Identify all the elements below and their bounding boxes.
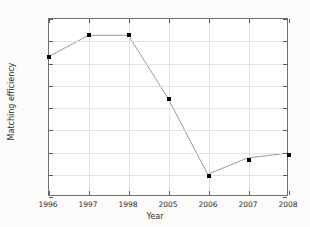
gridline-horizontal [49,64,287,65]
gridline-vertical [89,19,90,195]
gridline-vertical [129,19,130,195]
gridline-horizontal [49,175,287,176]
x-axis-tick-top [129,19,130,23]
x-axis-tick [209,191,210,195]
data-point-marker [207,174,211,178]
series-line [49,19,287,195]
y-axis-tick-right [283,108,287,109]
x-axis-tick [49,191,50,195]
y-axis-tick [49,108,53,109]
y-axis-tick [49,41,53,42]
y-axis-tick-right [283,19,287,20]
y-axis-tick-right [283,64,287,65]
gridline-vertical [169,19,170,195]
x-axis-tick [129,191,130,195]
x-axis-tick [249,191,250,195]
data-point-marker [247,158,251,162]
y-axis-tick [49,197,53,198]
data-point-marker [167,97,171,101]
y-axis-tick-right [283,197,287,198]
y-axis-tick-right [283,130,287,131]
gridline-horizontal [49,86,287,87]
y-axis-title: Matching efficiency [7,52,16,152]
x-axis-tick [289,191,290,195]
x-axis-tick-top [209,19,210,23]
x-axis-tick-top [49,19,50,23]
x-axis-tick-label: 2005 [158,201,177,209]
x-axis-tick-top [249,19,250,23]
gridline-vertical [209,19,210,195]
y-axis-tick [49,175,53,176]
x-axis-tick-label: 1998 [118,201,137,209]
y-axis-tick [49,86,53,87]
x-axis-tick-top [89,19,90,23]
data-point-marker [47,55,51,59]
gridline-vertical [249,19,250,195]
x-axis-tick [169,191,170,195]
x-axis-tick-label: 1996 [38,201,57,209]
y-axis-tick-right [283,41,287,42]
x-axis-tick-top [169,19,170,23]
x-axis-tick-label: 2006 [198,201,217,209]
x-axis-tick-label: 2007 [238,201,257,209]
chart-figure: Matching efficiency Year 0.250.300.350.4… [0,0,310,227]
data-point-marker [87,33,91,37]
x-axis-tick-label: 1997 [78,201,97,209]
gridline-horizontal [49,130,287,131]
x-axis-title: Year [0,212,310,221]
x-axis-tick-top [289,19,290,23]
data-point-marker [127,33,131,37]
gridline-horizontal [49,41,287,42]
y-axis-tick [49,64,53,65]
x-axis-tick [89,191,90,195]
y-axis-tick-right [283,175,287,176]
gridline-horizontal [49,108,287,109]
gridline-horizontal [49,153,287,154]
plot-area [48,18,288,196]
data-point-marker [287,153,291,157]
y-axis-tick [49,153,53,154]
y-axis-tick [49,130,53,131]
x-axis-tick-label: 2008 [278,201,297,209]
y-axis-tick-right [283,86,287,87]
